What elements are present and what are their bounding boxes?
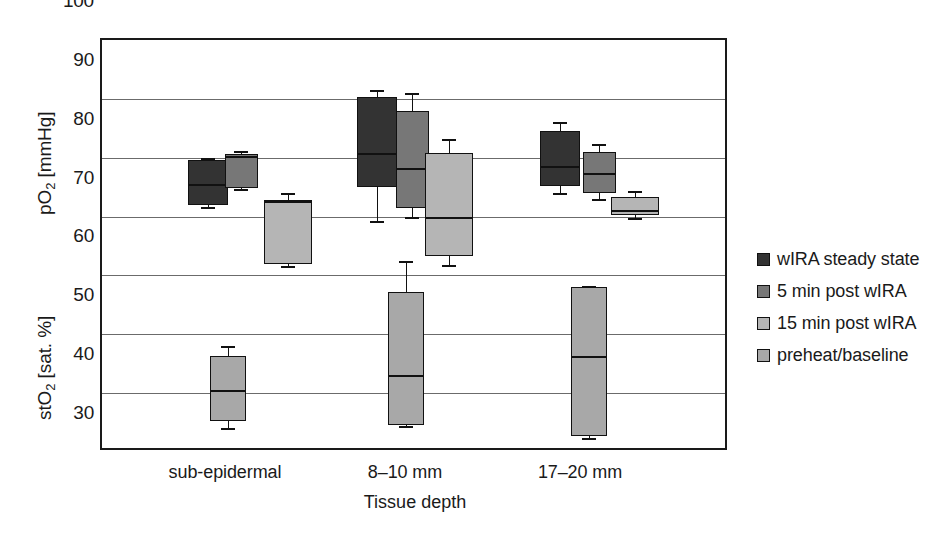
legend-swatch-icon bbox=[757, 317, 770, 330]
y-tick-label-30: 30 bbox=[48, 403, 94, 422]
boxplot-sto2-2 bbox=[102, 40, 725, 448]
chart-legend: wIRA steady state5 min post wIRA15 min p… bbox=[757, 243, 919, 371]
x-axis-title: Tissue depth bbox=[285, 492, 545, 513]
y-tick-label-50: 50 bbox=[48, 285, 94, 304]
plot-area bbox=[100, 38, 727, 450]
legend-swatch-icon bbox=[757, 285, 770, 298]
y-tick-label-90: 90 bbox=[48, 49, 94, 68]
legend-item-label: preheat/baseline bbox=[777, 345, 909, 366]
whisker-cap-lower bbox=[582, 438, 596, 440]
chart-root: pO2 [mmHg] stO2 [sat. %] 100908070605040… bbox=[0, 0, 950, 541]
y-tick-label-80: 80 bbox=[48, 108, 94, 127]
y-axis-tick-labels: 10090807060504030 bbox=[42, 0, 94, 412]
legend-swatch-icon bbox=[757, 253, 770, 266]
y-tick-label-100: 100 bbox=[48, 0, 94, 10]
box bbox=[571, 287, 607, 435]
legend-item-label: wIRA steady state bbox=[777, 249, 919, 270]
legend-item-label: 5 min post wIRA bbox=[777, 281, 907, 302]
y-tick-label-40: 40 bbox=[48, 344, 94, 363]
legend-item-3[interactable]: preheat/baseline bbox=[757, 339, 919, 371]
x-tick-label-2: 17–20 mm bbox=[470, 462, 690, 483]
legend-swatch-icon bbox=[757, 349, 770, 362]
legend-item-1[interactable]: 5 min post wIRA bbox=[757, 275, 919, 307]
y-tick-label-60: 60 bbox=[48, 226, 94, 245]
y-tick-label-70: 70 bbox=[48, 167, 94, 186]
median-line bbox=[571, 356, 607, 358]
legend-item-label: 15 min post wIRA bbox=[777, 313, 916, 334]
legend-item-0[interactable]: wIRA steady state bbox=[757, 243, 919, 275]
legend-item-2[interactable]: 15 min post wIRA bbox=[757, 307, 919, 339]
